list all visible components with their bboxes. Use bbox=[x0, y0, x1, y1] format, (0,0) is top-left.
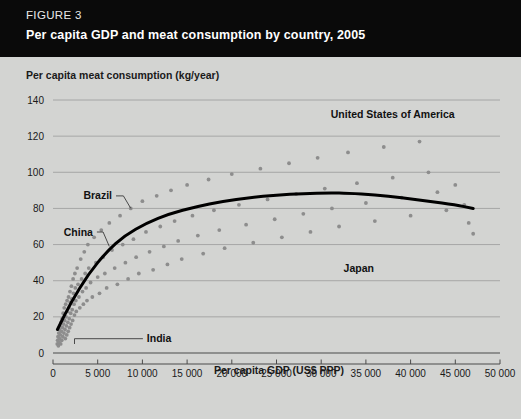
y-tick-label: 80 bbox=[33, 203, 45, 214]
x-tick-label: 30 000 bbox=[306, 368, 337, 379]
x-tick-label: 50 000 bbox=[485, 368, 516, 379]
scatter-point bbox=[68, 326, 72, 330]
scatter-point bbox=[82, 250, 86, 254]
scatter-point bbox=[75, 266, 79, 270]
scatter-point bbox=[337, 225, 341, 229]
scatter-point bbox=[148, 250, 152, 254]
scatter-point bbox=[103, 272, 107, 276]
figure-header-band: FIGURE 3 Per capita GDP and meat consump… bbox=[0, 0, 521, 57]
scatter-point bbox=[191, 214, 195, 218]
scatter-point bbox=[62, 306, 66, 310]
scatter-point bbox=[73, 313, 77, 317]
scatter-point bbox=[134, 255, 138, 259]
y-tick-label: 100 bbox=[27, 167, 44, 178]
annotation-label: United States of America bbox=[331, 108, 455, 120]
scatter-point bbox=[86, 243, 90, 247]
scatter-point bbox=[63, 337, 67, 341]
y-tick-label: 140 bbox=[27, 95, 44, 106]
y-tick-label: 60 bbox=[33, 239, 45, 250]
scatter-point bbox=[90, 295, 94, 299]
scatter-point bbox=[309, 230, 313, 234]
y-tick-label: 120 bbox=[27, 131, 44, 142]
scatter-point bbox=[176, 239, 180, 243]
scatter-point bbox=[129, 207, 133, 211]
scatter-point bbox=[427, 170, 431, 174]
scatter-point bbox=[166, 263, 170, 267]
scatter-point bbox=[185, 183, 189, 187]
scatter-point bbox=[89, 281, 93, 285]
scatter-point bbox=[158, 225, 162, 229]
figure-container: FIGURE 3 Per capita GDP and meat consump… bbox=[0, 0, 521, 419]
scatter-point bbox=[237, 203, 241, 207]
scatter-point bbox=[66, 320, 70, 324]
scatter-point bbox=[346, 151, 350, 155]
annotation-label: China bbox=[64, 226, 93, 238]
scatter-point bbox=[96, 275, 100, 279]
scatter-point bbox=[355, 181, 359, 185]
scatter-point bbox=[60, 338, 64, 342]
scatter-point bbox=[436, 190, 440, 194]
scatter-point bbox=[66, 329, 70, 333]
y-tick-label: 40 bbox=[33, 275, 45, 286]
scatter-point bbox=[364, 201, 368, 205]
scatter-point bbox=[323, 187, 327, 191]
scatter-point bbox=[69, 311, 73, 315]
scatter-point bbox=[244, 223, 248, 227]
scatter-point bbox=[124, 261, 128, 265]
x-tick-label: 40 000 bbox=[395, 368, 426, 379]
scatter-point bbox=[59, 342, 63, 346]
scatter-point bbox=[78, 306, 82, 310]
scatter-point bbox=[83, 272, 87, 276]
scatter-point bbox=[280, 235, 284, 239]
scatter-point bbox=[65, 299, 69, 303]
scatter-point bbox=[81, 290, 85, 294]
scatter-point bbox=[77, 295, 81, 299]
scatter-point bbox=[155, 194, 159, 198]
scatter-point bbox=[382, 145, 386, 149]
scatter-point bbox=[85, 299, 89, 303]
scatter-point bbox=[63, 328, 67, 332]
scatter-point bbox=[373, 219, 377, 223]
scatter-point bbox=[201, 252, 205, 256]
scatter-point bbox=[65, 324, 69, 328]
scatter-point bbox=[70, 284, 74, 288]
scatter-point bbox=[173, 219, 177, 223]
scatter-point bbox=[71, 319, 75, 323]
scatter-point bbox=[70, 308, 74, 312]
scatter-point bbox=[316, 156, 320, 160]
scatter-point bbox=[391, 176, 395, 180]
x-tick-label: 20 000 bbox=[217, 368, 248, 379]
scatter-point bbox=[73, 272, 77, 276]
scatter-point bbox=[251, 241, 255, 245]
scatter-point bbox=[68, 290, 72, 294]
scatter-point bbox=[409, 214, 413, 218]
scatter-point bbox=[418, 140, 422, 144]
scatter-point bbox=[105, 286, 109, 290]
x-tick-label: 5 000 bbox=[85, 368, 110, 379]
scatter-point bbox=[169, 188, 173, 192]
scatter-point bbox=[207, 178, 211, 182]
scatter-point bbox=[67, 295, 71, 299]
scatter-point bbox=[118, 214, 122, 218]
scatter-point bbox=[113, 266, 117, 270]
x-tick-label: 35 000 bbox=[351, 368, 382, 379]
scatter-point bbox=[64, 302, 68, 306]
scatter-point bbox=[115, 282, 119, 286]
annotation-label: Japan bbox=[344, 262, 374, 274]
scatter-point bbox=[144, 230, 148, 234]
scatter-point bbox=[453, 183, 457, 187]
scatter-point bbox=[107, 221, 111, 225]
scatter-point bbox=[137, 272, 141, 276]
scatter-point bbox=[266, 197, 270, 201]
scatter-point bbox=[180, 257, 184, 261]
figure-title: Per capita GDP and meat consumption by c… bbox=[26, 28, 365, 42]
scatter-point bbox=[287, 161, 291, 165]
y-tick-label: 20 bbox=[33, 311, 45, 322]
x-tick-label: 45 000 bbox=[440, 368, 471, 379]
scatter-point bbox=[467, 221, 471, 225]
scatter-point bbox=[126, 277, 130, 281]
annotation-leader-line bbox=[116, 196, 131, 209]
scatter-point bbox=[71, 277, 75, 281]
scatter-point bbox=[65, 333, 69, 337]
scatter-point bbox=[444, 208, 448, 212]
